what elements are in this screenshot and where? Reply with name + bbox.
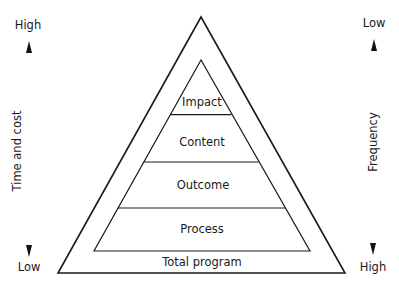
right-down-arrow-icon [370, 243, 376, 255]
level-outcome: Outcome [177, 178, 230, 192]
left-axis-bottom-label: Low [18, 260, 41, 274]
right-axis-top-label: Low [363, 16, 386, 30]
left-axis-label: Time and cost [10, 111, 24, 192]
right-axis-bottom-label: High [360, 260, 386, 274]
level-impact: Impact [182, 95, 222, 109]
left-down-arrow-icon [26, 245, 32, 257]
right-up-arrow-icon [371, 39, 377, 51]
right-axis-label: Frequency [366, 112, 380, 171]
left-up-arrow-icon [26, 41, 32, 53]
left-axis-top-label: High [15, 18, 41, 32]
level-process: Process [180, 222, 224, 236]
base-total-program: Total program [162, 255, 242, 269]
level-content: Content [179, 135, 225, 149]
